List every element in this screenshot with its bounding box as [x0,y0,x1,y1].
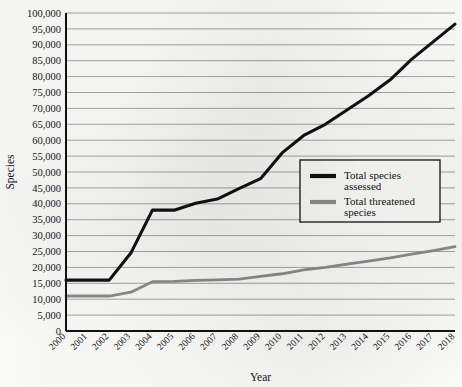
y-axis-tick-labels: 05,00010,00015,00020,00025,00030,00035,0… [27,8,61,337]
series-line [66,24,455,280]
x-axis-tick-label: 2004 [133,331,154,352]
y-axis-tick-label: 5,000 [37,310,61,321]
x-axis-tick-label: 2012 [306,331,327,352]
x-axis-tick-label: 2006 [177,331,198,352]
y-axis-tick-label: 40,000 [32,198,61,209]
x-axis-tick-label: 2001 [69,331,90,352]
y-axis-tick-label: 10,000 [32,294,61,305]
x-axis-tick-labels: 2000200120022003200420052006200720082009… [47,331,457,352]
x-axis-tick-label: 2014 [349,331,370,352]
y-axis-tick-label: 80,000 [32,71,61,82]
series-line [66,247,455,296]
y-axis-tick-label: 60,000 [32,135,61,146]
chart-legend: Total species assessed Total threatened … [300,160,440,222]
y-axis-tick-label: 55,000 [32,151,61,162]
y-axis-tick-label: 20,000 [32,262,61,273]
y-axis-tick-label: 25,000 [32,246,61,257]
y-axis-tick-label: 70,000 [32,103,61,114]
y-axis-tick-label: 75,000 [32,87,61,98]
x-axis-tick-label: 2003 [112,331,133,352]
x-axis-tick-label: 2017 [414,331,435,352]
species-assessment-line-chart: 05,00010,00015,00020,00025,00030,00035,0… [0,0,462,387]
x-axis-tick-label: 2011 [285,331,305,351]
legend-label-threatened-line2: species [344,206,376,218]
y-axis-tick-label: 45,000 [32,183,61,194]
x-axis-tick-label: 2010 [263,331,284,352]
x-axis-tick-label: 2002 [90,331,111,352]
x-axis-tick-label: 2009 [241,331,262,352]
x-axis-tick-label: 2007 [198,331,219,352]
y-axis-tick-label: 95,000 [32,24,61,35]
y-axis-tick-label: 35,000 [32,214,61,225]
y-axis-tick-label: 65,000 [32,119,61,130]
x-axis-tick-label: 2015 [371,331,392,352]
x-axis-tick-label: 2008 [220,331,241,352]
y-axis-tick-label: 90,000 [32,39,61,50]
x-axis-tick-label: 2000 [47,331,68,352]
y-axis-tick-label: 30,000 [32,230,61,241]
x-axis-tick-label: 2016 [393,331,414,352]
x-axis-tick-label: 2013 [328,331,349,352]
x-axis-title: Year [250,371,271,383]
y-axis-tick-label: 85,000 [32,55,61,66]
y-axis-title: Species [4,154,17,190]
y-axis-tick-label: 100,000 [27,8,61,19]
legend-label-assessed-line2: assessed [344,180,382,192]
x-axis-tick-label: 2005 [155,331,176,352]
y-axis-tick-label: 15,000 [32,278,61,289]
y-axis-tick-label: 50,000 [32,167,61,178]
chart-plot-area: 05,00010,00015,00020,00025,00030,00035,0… [0,0,462,387]
x-axis-tick-label: 2018 [436,331,457,352]
